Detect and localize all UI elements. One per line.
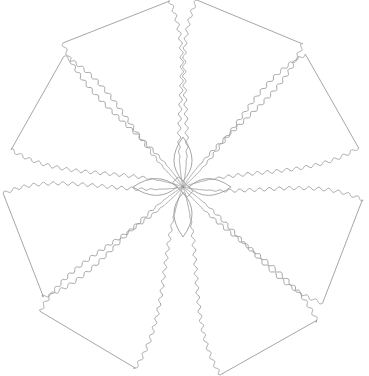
petal-upper-right-outer bbox=[183, 0, 303, 187]
flower-illustration bbox=[0, 0, 369, 376]
petal-upper-right-inner bbox=[183, 54, 359, 187]
leaf-top bbox=[174, 137, 192, 181]
flower-drawing bbox=[0, 0, 369, 376]
petal-lower-right-outer bbox=[183, 187, 363, 304]
leaf-left bbox=[133, 179, 177, 196]
petals-group bbox=[3, 0, 363, 375]
petal-lower-left-inner bbox=[40, 187, 183, 368]
petal-lower-left-outer bbox=[3, 182, 183, 297]
petal-lower-right-inner bbox=[183, 187, 317, 375]
petal-upper-left-outer bbox=[62, 1, 183, 187]
leaf-right bbox=[189, 179, 231, 196]
petal-upper-left-inner bbox=[11, 56, 183, 187]
